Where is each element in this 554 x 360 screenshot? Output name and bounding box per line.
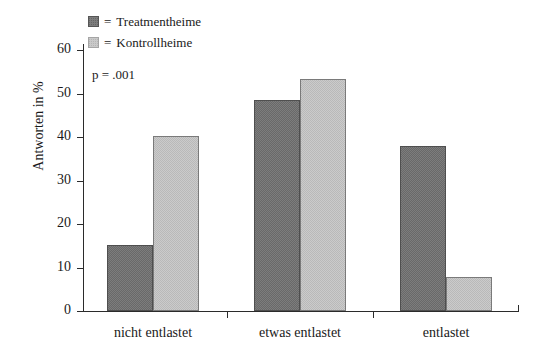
y-axis-label-60: 60 (27, 42, 71, 56)
bar-treatmentheime-0 (107, 245, 153, 311)
y-axis-label-20: 20 (27, 216, 71, 230)
y-axis-title: Antworten in % (31, 31, 47, 221)
bar-kontrollheime-2 (446, 277, 492, 311)
x-axis-line (83, 311, 519, 312)
y-axis-label-10: 10 (27, 260, 71, 274)
x-axis-end-cap (518, 305, 519, 312)
y-axis-label-50: 50 (27, 86, 71, 100)
chart-legend: = Treatmentheime = Kontrollheime (88, 14, 201, 49)
legend-label-treatmentheime: Treatmentheime (116, 15, 201, 28)
y-axis-label-40: 40 (27, 129, 71, 143)
bar-kontrollheime-0 (153, 136, 199, 311)
plot-area (83, 50, 518, 311)
y-axis-label-0: 0 (27, 303, 71, 317)
x-axis-tick-1 (227, 311, 228, 318)
light-square-icon (88, 37, 99, 48)
y-axis-tick-0 (77, 311, 83, 312)
legend-item-kontrollheime: = Kontrollheime (88, 35, 201, 49)
x-axis-label-2: entlastet (366, 326, 526, 340)
bar-treatmentheime-2 (400, 146, 446, 311)
x-axis-label-1: etwas entlastet (220, 326, 380, 340)
legend-label-kontrollheime: Kontrollheime (116, 36, 192, 49)
legend-equals-sign-0: = (104, 15, 111, 28)
bar-treatmentheime-1 (254, 100, 300, 311)
dark-square-icon (88, 16, 99, 27)
legend-item-treatmentheime: = Treatmentheime (88, 14, 201, 28)
bar-kontrollheime-1 (300, 79, 346, 311)
bar-chart-figure: = Treatmentheime = Kontrollheime p = .00… (0, 0, 554, 360)
x-axis-label-0: nicht entlastet (73, 326, 233, 340)
y-axis-label-30: 30 (27, 173, 71, 187)
x-axis-tick-2 (373, 311, 374, 318)
legend-equals-sign-1: = (104, 36, 111, 49)
